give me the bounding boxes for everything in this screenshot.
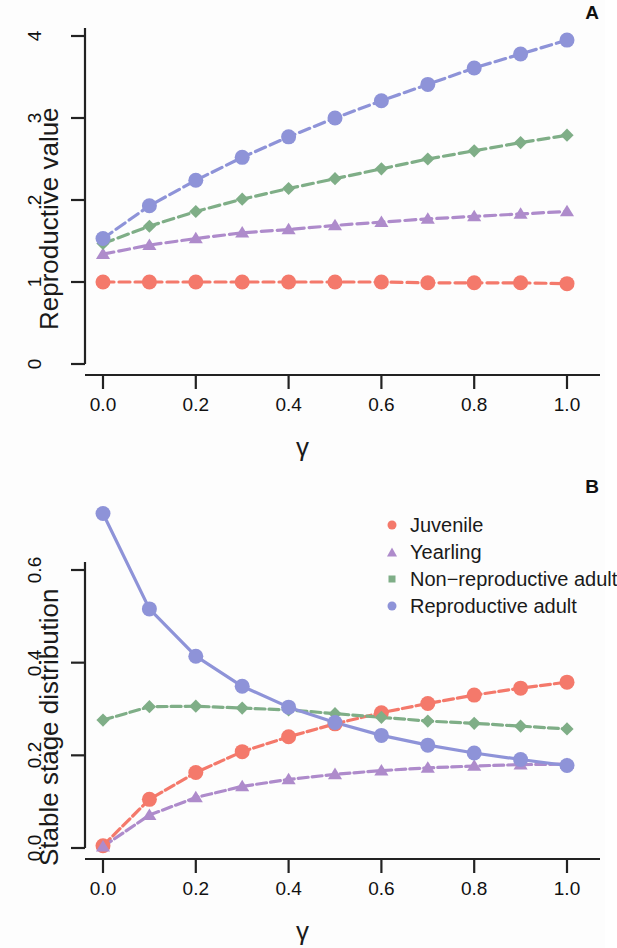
marker-juvenile [420,275,435,290]
marker-juvenile [281,729,296,744]
y-tick-label: 0 [24,334,46,394]
x-tick-label: 0.2 [161,878,231,900]
panel-a-reproductive-value: A Reproductive value γ 012340.00.20.40.6… [0,0,605,474]
x-tick-label: 0.6 [346,878,416,900]
legend-item-yearling: Yearling [383,539,617,564]
marker-juvenile [235,275,250,290]
marker-reproductive-adult [328,715,343,730]
marker-juvenile [328,275,343,290]
marker-juvenile [281,275,296,290]
marker-non-reproductive-adult [514,720,527,733]
legend-item-label: Non−reproductive adult [410,569,617,589]
marker-non-reproductive-adult [236,701,249,714]
x-tick-label: 0.6 [346,394,416,416]
marker-juvenile [467,275,482,290]
marker-juvenile [420,696,435,711]
y-tick-label: 0.4 [24,633,46,693]
y-tick-label: 0.2 [24,725,46,785]
marker-non-reproductive-adult [143,220,156,233]
x-tick-label: 1.0 [532,394,602,416]
x-tick-label: 1.0 [532,878,602,900]
marker-non-reproductive-adult [328,172,341,185]
marker-reproductive-adult [560,758,575,773]
marker-non-reproductive-adult [560,129,573,142]
marker-reproductive-adult [235,150,250,165]
marker-non-reproductive-adult [468,717,481,730]
marker-reproductive-adult [281,129,296,144]
marker-non-reproductive-adult [421,714,434,727]
marker-non-reproductive-adult [514,136,527,149]
panel-a-x-axis-title: γ [0,432,605,463]
marker-non-reproductive-adult [96,714,109,727]
marker-juvenile [96,275,111,290]
marker-reproductive-adult [235,679,250,694]
y-tick-label: 0.6 [24,540,46,600]
diamond-icon [383,570,401,588]
y-tick-label: 1 [24,252,46,312]
marker-reproductive-adult [560,33,575,48]
marker-non-reproductive-adult [143,700,156,713]
marker-juvenile [560,675,575,690]
panel-b-letter: B [585,476,599,498]
marker-juvenile [188,765,203,780]
marker-juvenile [513,275,528,290]
marker-non-reproductive-adult [421,152,434,165]
legend: JuvenileYearlingNon−reproductive adultRe… [383,512,617,618]
marker-juvenile [513,681,528,696]
legend-item-non-reproductive-adult: Non−reproductive adult [383,566,617,591]
marker-reproductive-adult [420,738,435,753]
panel-b-x-axis-title: γ [0,916,605,947]
marker-juvenile [235,744,250,759]
x-tick-label: 0.2 [161,394,231,416]
marker-reproductive-adult [513,47,528,62]
marker-reproductive-adult [374,93,389,108]
marker-reproductive-adult [142,601,157,616]
marker-non-reproductive-adult [560,722,573,735]
legend-item-label: Reproductive adult [410,596,577,616]
x-tick-label: 0.0 [68,394,138,416]
circle-icon [383,597,401,615]
marker-reproductive-adult [420,77,435,92]
y-tick-label: 0.0 [24,818,46,878]
marker-non-reproductive-adult [189,205,202,218]
marker-non-reproductive-adult [236,193,249,206]
marker-non-reproductive-adult [189,700,202,713]
marker-reproductive-adult [467,746,482,761]
marker-juvenile [142,275,157,290]
legend-item-reproductive-adult: Reproductive adult [383,593,617,618]
marker-reproductive-adult [281,700,296,715]
marker-non-reproductive-adult [282,182,295,195]
marker-reproductive-adult [188,173,203,188]
marker-juvenile [374,275,389,290]
marker-juvenile [560,276,575,291]
marker-reproductive-adult [188,649,203,664]
marker-juvenile [467,688,482,703]
legend-item-label: Yearling [410,542,482,562]
marker-reproductive-adult [96,231,111,246]
marker-reproductive-adult [467,60,482,75]
x-tick-label: 0.8 [439,394,509,416]
y-tick-label: 3 [24,88,46,148]
legend-item-juvenile: Juvenile [383,512,617,537]
y-tick-label: 2 [24,170,46,230]
marker-non-reproductive-adult [375,162,388,175]
x-tick-label: 0.4 [254,878,324,900]
marker-reproductive-adult [142,198,157,213]
legend-item-label: Juvenile [410,515,483,535]
y-tick-label: 4 [24,6,46,66]
series-line-reproductive-adult [103,40,567,238]
marker-non-reproductive-adult [468,144,481,157]
marker-juvenile [188,275,203,290]
triangle-icon [383,543,401,561]
marker-reproductive-adult [96,506,111,521]
circle-icon [383,516,401,534]
marker-reproductive-adult [328,111,343,126]
x-tick-label: 0.0 [68,878,138,900]
marker-reproductive-adult [374,728,389,743]
x-tick-label: 0.4 [254,394,324,416]
marker-juvenile [142,792,157,807]
marker-yearling [560,205,574,217]
marker-reproductive-adult [513,752,528,767]
panel-a-letter: A [585,2,599,24]
